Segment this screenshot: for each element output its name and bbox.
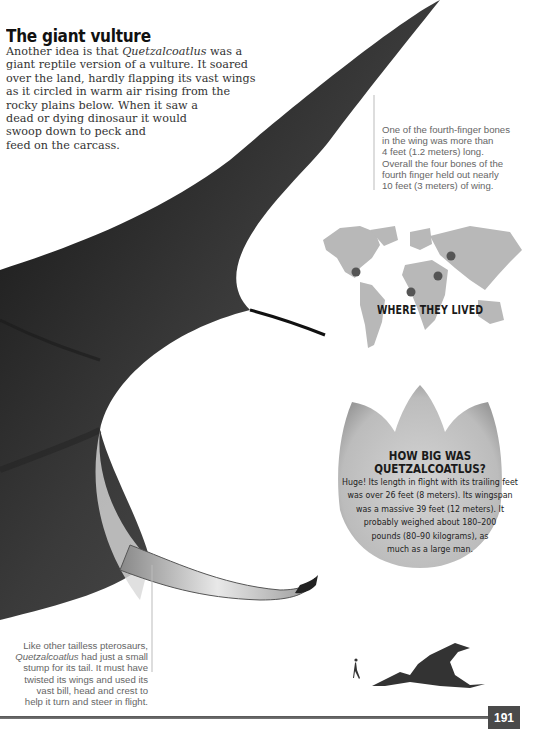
how-big-line: Huge! Its length in flight with its trai…	[341, 475, 520, 488]
caption-line: Overall the four bones of the	[382, 158, 510, 169]
caption-line-tail: had just a small	[79, 651, 148, 662]
tail-caption: Like other tailless pterosaurs, Quetzalc…	[0, 640, 148, 707]
pterosaur-silhouette-icon	[372, 643, 485, 688]
caption-line: Quetzalcoatlus had just a small	[0, 651, 148, 662]
intro-paragraph: Another idea is that Quetzalcoatlus was …	[6, 45, 306, 152]
section-heading: The giant vulture	[6, 26, 151, 46]
how-big-line: was over 26 feet (8 meters). Its wingspa…	[341, 488, 520, 501]
world-map	[323, 226, 522, 348]
caption-line: One of the fourth-finger bones	[382, 124, 510, 135]
fossil-dot-middle-east	[434, 272, 443, 281]
finger-bones-caption: One of the fourth-finger bones in the wi…	[382, 124, 510, 191]
species-name-italic: Quetzalcoatlus	[15, 651, 78, 662]
fossil-dot-north-africa	[407, 288, 416, 297]
intro-line-1-head: Another idea is that	[6, 45, 122, 58]
fossil-dot-north-america	[352, 268, 361, 277]
how-big-title: HOW BIG WAS QUETZALCOATLUS?	[349, 450, 511, 476]
how-big-line: much as a large man.	[341, 542, 520, 555]
intro-line-6: dead or dying dinosaur it would	[6, 112, 306, 125]
running-man-icon	[353, 658, 360, 679]
caption-line: help it turn and steer in flight.	[0, 696, 148, 707]
intro-line-1-tail: was a	[206, 45, 242, 58]
caption-line: Like other tailless pterosaurs,	[0, 640, 148, 651]
caption-line: fourth finger held out nearly	[382, 169, 510, 180]
how-big-line: probably weighed about 180–200	[341, 515, 520, 528]
caption-line: in the wing was more than	[382, 135, 510, 146]
fossil-dot-russia	[447, 252, 456, 261]
caption-line: stump for its tail. It must have	[0, 662, 148, 673]
caption-line: twisted its wings and used its	[0, 674, 148, 685]
how-big-line: pounds (80–90 kilograms), as	[341, 529, 520, 542]
species-name-italic: Quetzalcoatlus	[122, 45, 206, 58]
intro-line-4: as it circled in warm air rising from th…	[6, 85, 306, 98]
caption-line: 4 feet (1.2 meters) long.	[382, 146, 510, 157]
caption-line: 10 feet (3 meters) of wing.	[382, 180, 510, 191]
page-footer-rule	[0, 716, 490, 719]
intro-line-7: swoop down to peck and	[6, 125, 306, 138]
intro-line-8: feed on the carcass.	[6, 139, 306, 152]
page-number-badge: 191	[488, 706, 520, 729]
intro-line-3: over the land, hardly flapping its vast …	[6, 72, 306, 85]
intro-line-2: giant reptile version of a vulture. It s…	[6, 58, 306, 71]
map-label: WHERE THEY LIVED	[377, 303, 483, 317]
how-big-line: was a massive 39 feet (12 meters). It	[341, 502, 520, 515]
intro-line-5: rocky plains below. When it saw a	[6, 99, 306, 112]
caption-line: vast bill, head and crest to	[0, 685, 148, 696]
how-big-body: Huge! Its length in flight with its trai…	[341, 475, 520, 555]
intro-line-1: Another idea is that Quetzalcoatlus was …	[6, 45, 306, 58]
